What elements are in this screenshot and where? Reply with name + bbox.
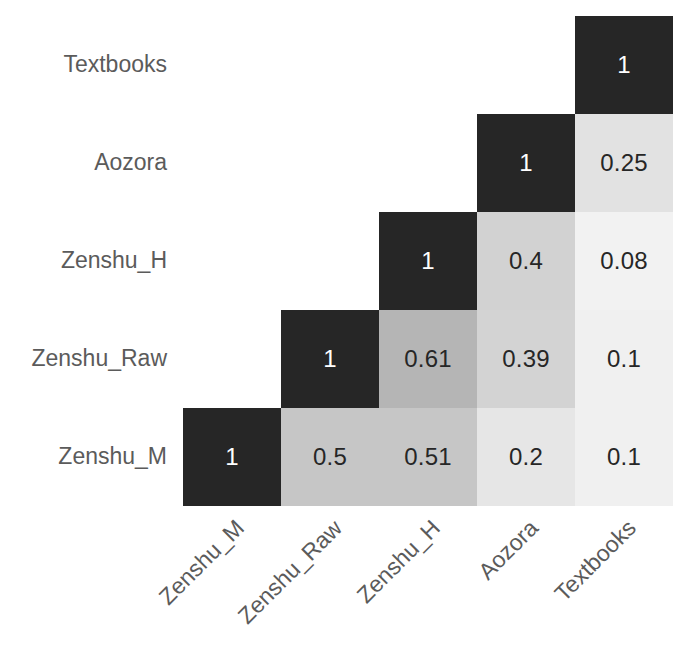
- heatmap-cell-value: 0.1: [607, 445, 641, 469]
- heatmap-cell: 0.2: [477, 408, 575, 506]
- heatmap-cell-value: 1: [421, 249, 435, 273]
- y-axis-tick-label-zenshu_m: Zenshu_M: [0, 445, 167, 468]
- heatmap-cell-value: 1: [617, 53, 631, 77]
- heatmap-cell-value: 0.25: [600, 151, 648, 175]
- heatmap-cell-value: 0.08: [600, 249, 648, 273]
- heatmap-cell: 1: [379, 212, 477, 310]
- heatmap-cell-value: 0.39: [502, 347, 550, 371]
- heatmap-cell-value: 1: [225, 445, 239, 469]
- heatmap-cell-value: 1: [519, 151, 533, 175]
- heatmap-cell-value: 0.2: [509, 445, 543, 469]
- heatmap-cell: 0.51: [379, 408, 477, 506]
- heatmap-cell-value: 0.1: [607, 347, 641, 371]
- heatmap-cell-value: 1: [323, 347, 337, 371]
- heatmap-cell-value: 0.4: [509, 249, 543, 273]
- y-axis-tick-label-aozora: Aozora: [0, 151, 167, 174]
- heatmap-cell: 1: [183, 408, 281, 506]
- heatmap-cell: 1: [575, 16, 673, 114]
- heatmap-cell: 0.61: [379, 310, 477, 408]
- heatmap-cell: 0.39: [477, 310, 575, 408]
- heatmap-cell: 0.1: [575, 310, 673, 408]
- y-axis-tick-label-zenshu_raw: Zenshu_Raw: [0, 347, 167, 370]
- heatmap-plot-area: 110.2510.40.0810.610.390.110.50.510.20.1: [183, 16, 673, 506]
- correlation-heatmap-figure: 110.2510.40.0810.610.390.110.50.510.20.1…: [0, 0, 680, 660]
- heatmap-cell-value: 0.61: [404, 347, 452, 371]
- heatmap-cell: 1: [281, 310, 379, 408]
- heatmap-cell: 0.4: [477, 212, 575, 310]
- y-axis-tick-label-textbooks: Textbooks: [0, 53, 167, 76]
- heatmap-cell: 0.08: [575, 212, 673, 310]
- heatmap-cell: 0.5: [281, 408, 379, 506]
- heatmap-cell: 0.25: [575, 114, 673, 212]
- heatmap-cell: 0.1: [575, 408, 673, 506]
- y-axis-tick-label-zenshu_h: Zenshu_H: [0, 249, 167, 272]
- heatmap-cell: 1: [477, 114, 575, 212]
- heatmap-cell-value: 0.51: [404, 445, 452, 469]
- heatmap-cell-value: 0.5: [313, 445, 347, 469]
